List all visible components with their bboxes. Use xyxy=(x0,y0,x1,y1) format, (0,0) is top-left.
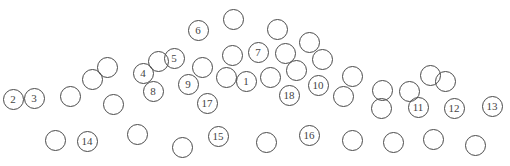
unnumbered-circle xyxy=(465,135,486,156)
unnumbered-circle xyxy=(216,67,237,88)
unnumbered-circle xyxy=(103,94,124,115)
circle-diagram-canvas: 234586917171810111213141516 xyxy=(0,0,510,166)
numbered-circle-12: 12 xyxy=(444,98,465,119)
unnumbered-circle xyxy=(423,129,444,150)
numbered-circle-11: 11 xyxy=(408,97,429,118)
unnumbered-circle xyxy=(192,57,213,78)
numbered-circle-15: 15 xyxy=(208,126,229,147)
unnumbered-circle xyxy=(172,137,193,158)
unnumbered-circle xyxy=(260,67,281,88)
unnumbered-circle xyxy=(97,57,118,78)
numbered-circle-7: 7 xyxy=(248,42,269,63)
numbered-circle-17: 17 xyxy=(197,93,218,114)
numbered-circle-3: 3 xyxy=(24,88,45,109)
numbered-circle-2: 2 xyxy=(3,89,24,110)
unnumbered-circle xyxy=(267,19,288,40)
unnumbered-circle xyxy=(342,130,363,151)
numbered-circle-10: 10 xyxy=(308,75,329,96)
numbered-circle-8: 8 xyxy=(143,81,164,102)
numbered-circle-6: 6 xyxy=(188,20,209,41)
unnumbered-circle xyxy=(333,86,354,107)
unnumbered-circle xyxy=(60,86,81,107)
unnumbered-circle xyxy=(45,130,66,151)
unnumbered-circle xyxy=(256,132,277,153)
unnumbered-circle xyxy=(222,45,243,66)
unnumbered-circle xyxy=(286,60,307,81)
numbered-circle-5: 5 xyxy=(164,48,185,69)
unnumbered-circle xyxy=(371,98,392,119)
numbered-circle-9: 9 xyxy=(178,74,199,95)
unnumbered-circle xyxy=(312,49,333,70)
unnumbered-circle xyxy=(342,66,363,87)
unnumbered-circle xyxy=(383,132,404,153)
unnumbered-circle xyxy=(299,32,320,53)
numbered-circle-1: 1 xyxy=(236,71,257,92)
numbered-circle-18: 18 xyxy=(279,85,300,106)
numbered-circle-13: 13 xyxy=(482,96,503,117)
numbered-circle-16: 16 xyxy=(299,125,320,146)
unnumbered-circle xyxy=(223,9,244,30)
unnumbered-circle xyxy=(127,124,148,145)
numbered-circle-14: 14 xyxy=(77,131,98,152)
unnumbered-circle xyxy=(435,71,456,92)
